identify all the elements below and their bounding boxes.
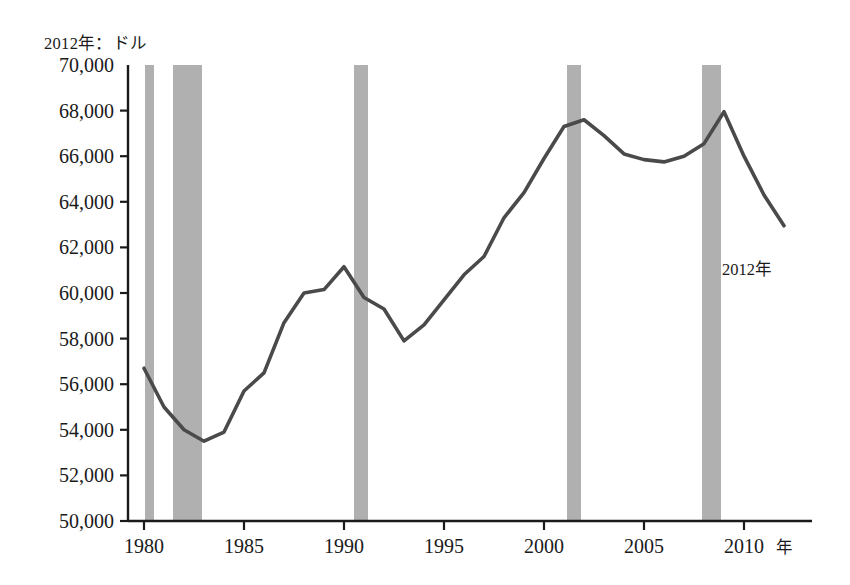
x-axis-unit-label: 年 (776, 538, 793, 557)
y-axis-tick-label: 66,000 (59, 145, 114, 167)
y-axis-tick-label: 70,000 (59, 54, 114, 76)
y-axis-tick-label: 52,000 (59, 464, 114, 486)
line-chart-plot: 50,00052,00054,00056,00058,00060,00062,0… (0, 0, 850, 585)
data-series-group (144, 112, 784, 441)
recession-band (567, 65, 581, 521)
recession-band (173, 65, 202, 521)
axis-ticks-group (120, 111, 744, 530)
y-axis-tick-label: 56,000 (59, 373, 114, 395)
x-axis-tick-label: 2010 (724, 535, 764, 557)
x-axis-tick-label: 2005 (624, 535, 664, 557)
recession-band (145, 65, 154, 521)
y-axis-tick-label: 62,000 (59, 236, 114, 258)
axis-labels-group: 50,00052,00054,00056,00058,00060,00062,0… (59, 54, 793, 557)
y-axis-tick-label: 58,000 (59, 328, 114, 350)
x-axis-tick-label: 1990 (324, 535, 364, 557)
x-axis-tick-label: 1995 (424, 535, 464, 557)
y-axis-tick-label: 60,000 (59, 282, 114, 304)
y-axis-tick-label: 54,000 (59, 419, 114, 441)
y-axis-tick-label: 50,000 (59, 510, 114, 532)
y-axis-tick-label: 64,000 (59, 191, 114, 213)
y-axis-tick-label: 68,000 (59, 100, 114, 122)
x-axis-tick-label: 1980 (124, 535, 164, 557)
x-axis-tick-label: 1985 (224, 535, 264, 557)
series-line (144, 112, 784, 441)
chart-figure: 2012年：ドル 50,00052,00054,00056,00058,0006… (0, 0, 850, 585)
x-axis-tick-label: 2000 (524, 535, 564, 557)
recession-bands-group (145, 65, 721, 521)
series-end-annotation: 2012年 (722, 260, 772, 279)
